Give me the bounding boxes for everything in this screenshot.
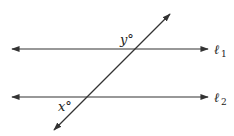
- angle-x-label: x°: [58, 99, 72, 114]
- svg-text:ℓ: ℓ: [214, 90, 220, 105]
- svg-text:ℓ: ℓ: [214, 42, 220, 57]
- svg-text:1: 1: [221, 49, 227, 59]
- line-l2-label: ℓ 2: [214, 90, 227, 107]
- line-l1-label: ℓ 1: [214, 42, 227, 59]
- svg-text:2: 2: [221, 97, 227, 107]
- angle-y-label: y°: [119, 32, 134, 47]
- parallel-lines-diagram: y° x° ℓ 1 ℓ 2: [0, 0, 234, 136]
